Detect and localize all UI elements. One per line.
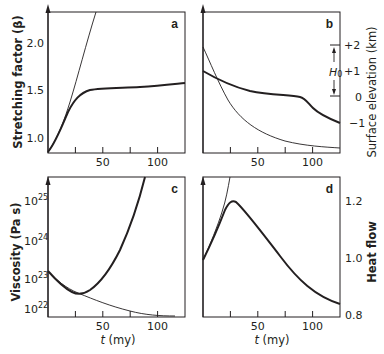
x-tick-label: 100 <box>302 156 323 169</box>
y-tick-label: 0.8 <box>345 309 363 322</box>
y-tick-label: 1.5 <box>27 84 45 97</box>
panel-b: 50 100 H0 +2 +1 0 −1 Surface elevation (… <box>201 4 380 169</box>
x-axis-title-c: t (my) <box>100 333 135 347</box>
y-axis-title-d: Heat flow <box>365 221 379 283</box>
y-tick-label: 0 <box>355 91 362 104</box>
arrow-up-icon <box>332 47 336 53</box>
panel-d-frame <box>203 177 340 317</box>
y-tick-label: 1025 <box>24 193 48 208</box>
x-axis-title-d: t (my) <box>254 333 289 347</box>
x-ticks-d <box>230 311 312 317</box>
panel-letter-d: d <box>326 182 333 196</box>
x-tick-label: 100 <box>302 320 323 333</box>
y-tick-label: −1 <box>349 117 365 130</box>
curve-thin-b <box>203 47 340 148</box>
y-axis-title-c: Viscosity (Pa s) <box>9 202 23 301</box>
x-tick-label: 50 <box>251 156 265 169</box>
arrow-down-icon <box>332 89 336 95</box>
y-tick-label: 1023 <box>24 271 48 286</box>
curve-thin-d <box>203 177 230 260</box>
x-tick-label: 50 <box>96 156 110 169</box>
x-tick-label: 100 <box>147 320 168 333</box>
y-axis-title-b: Surface elevation (km) <box>365 26 379 157</box>
x-tick-label: 50 <box>251 320 265 333</box>
arrow-head-icon <box>46 4 51 13</box>
y-tick-label: 2.0 <box>27 37 45 50</box>
curve-thick-a <box>48 83 185 152</box>
arrow-head-icon <box>201 4 206 13</box>
panel-d: 50 100 t (my) 1.2 1.0 0.8 Heat flow d <box>201 176 380 347</box>
curve-thin-a <box>48 12 96 152</box>
curve-thick-c <box>48 177 145 294</box>
panel-letter-c: c <box>171 182 178 196</box>
panel-a: 50 100 2.0 1.5 1.0 Stretching factor (β)… <box>11 4 185 169</box>
x-ticks-a <box>75 147 157 153</box>
y-tick-label: 1.2 <box>345 195 363 208</box>
panel-a-frame <box>48 12 185 153</box>
panel-letter-a: a <box>171 17 178 31</box>
x-tick-label: 100 <box>147 156 168 169</box>
figure: 50 100 2.0 1.5 1.0 Stretching factor (β)… <box>0 0 384 354</box>
y-tick-label: 1024 <box>24 233 48 248</box>
curve-thick-b <box>203 71 340 123</box>
x-ticks-b <box>230 147 312 153</box>
y-tick-label: +2 <box>344 39 360 52</box>
y-tick-label: 1.0 <box>345 252 363 265</box>
curve-thin-c <box>48 271 175 316</box>
y-tick-label: 1022 <box>24 301 48 316</box>
panel-c-frame <box>48 177 185 317</box>
curve-thick-d <box>203 201 340 304</box>
y-tick-label: 1.0 <box>27 132 45 145</box>
x-tick-label: 50 <box>96 320 110 333</box>
y-axis-title-a: Stretching factor (β) <box>11 15 25 149</box>
y-tick-label: +1 <box>344 65 360 78</box>
panel-c: 50 100 t (my) 1025 1024 1023 1022 Viscos… <box>9 176 185 347</box>
panel-letter-b: b <box>326 17 333 31</box>
